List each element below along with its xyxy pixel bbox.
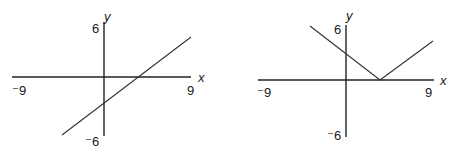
graph-left: y x 6 ⁻6 ⁻9 9 xyxy=(12,9,205,149)
x-max-tick-label: 9 xyxy=(187,83,194,98)
absolute-value-function-line xyxy=(310,26,433,80)
y-min-tick-label: ⁻6 xyxy=(85,134,99,149)
y-axis-label: y xyxy=(103,9,112,24)
linear-function-line xyxy=(62,37,191,135)
x-min-tick-label: ⁻9 xyxy=(257,85,271,100)
y-max-tick-label: 6 xyxy=(334,22,341,37)
y-max-tick-label: 6 xyxy=(92,21,99,36)
x-axis-label: x xyxy=(197,70,205,85)
x-min-tick-label: ⁻9 xyxy=(12,83,26,98)
graphs-figure: y x 6 ⁻6 ⁻9 9 y x 6 ⁻6 ⁻9 9 xyxy=(0,0,458,155)
y-axis-label: y xyxy=(345,8,354,23)
y-min-tick-label: ⁻6 xyxy=(327,128,341,143)
graph-right: y x 6 ⁻6 ⁻9 9 xyxy=(257,8,447,143)
x-axis-label: x xyxy=(439,73,447,88)
x-max-tick-label: 9 xyxy=(425,85,432,100)
